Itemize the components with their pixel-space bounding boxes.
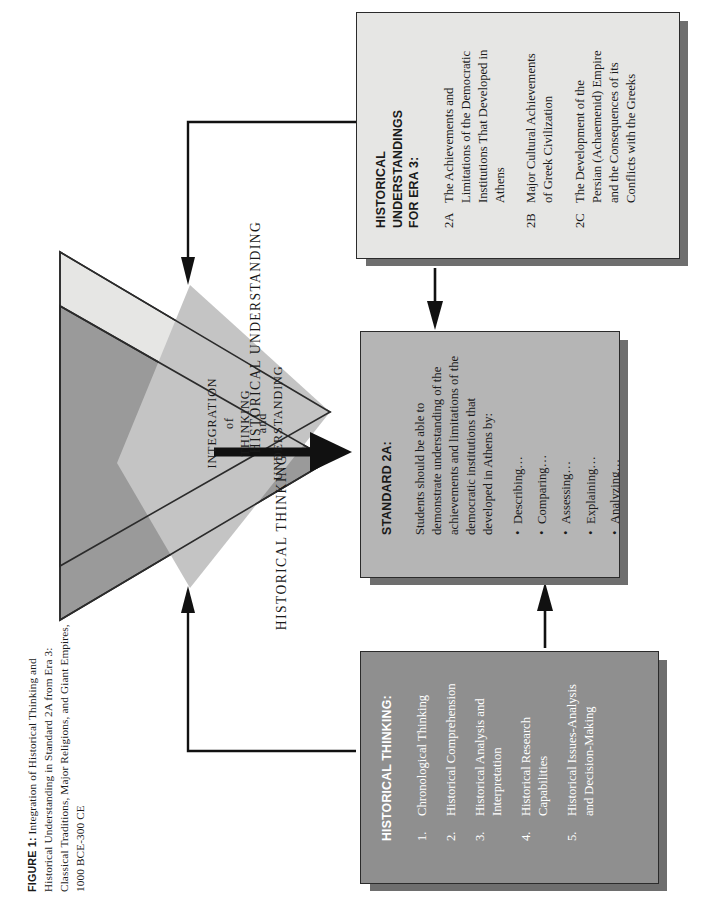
standard-bullet: •Explaining… (583, 350, 600, 535)
thinking-title: HISTORICAL THINKING: (379, 669, 396, 841)
standard-box[interactable]: STANDARD 2A: Students should be able to … (360, 331, 620, 578)
thinking-item: 4. Historical Research Capabilities (518, 669, 552, 841)
thinking-item: 3. Historical Analysis and Interpretatio… (472, 669, 506, 841)
standard-bullets: •Describing… •Comparing… •Assessing… •Ex… (510, 350, 620, 535)
arrow-head-up (181, 586, 195, 613)
standard-bullet-text: Describing… (511, 456, 525, 524)
thinking-item-num: 5. (564, 822, 598, 841)
integration-line-5: UNDERSTANDING (270, 308, 287, 538)
thinking-item-text: Chronological Thinking (414, 669, 431, 816)
integration-line-2: of (221, 308, 238, 538)
integration-line-1: INTEGRATION (204, 308, 221, 538)
integration-line-4: and (254, 308, 271, 538)
understanding-item-num: 2B (523, 209, 557, 228)
understanding-item-text: The Development of the Persian (Achaemen… (572, 43, 641, 203)
understandings-title: HISTORICAL UNDERSTANDINGS FOR ERA 3: (373, 43, 423, 228)
connector-understandings-to-triangle (188, 122, 356, 258)
understandings-title-line1: HISTORICAL UNDERSTANDINGS (373, 43, 406, 228)
understanding-item-text: The Achievements and Limitations of the … (441, 43, 510, 203)
standard-bullet-text: Assessing… (559, 461, 573, 524)
standard-bullet: •Analyzing… (607, 350, 620, 535)
thinking-item-num: 1. (414, 822, 431, 841)
understanding-item: 2B Major Cultural Achievements of Greek … (523, 43, 557, 228)
understandings-title-line2: FOR ERA 3: (406, 43, 423, 228)
understanding-item-num: 2C (572, 209, 641, 228)
standard-bullet: •Describing… (510, 350, 527, 535)
thinking-item-num: 2. (443, 822, 460, 841)
integration-line-3: THINKING (237, 308, 254, 538)
standard-bullet: •Comparing… (534, 350, 551, 535)
understanding-item: 2C The Development of the Persian (Achae… (572, 43, 641, 228)
standard-body: Students should be able to demonstrate u… (412, 350, 498, 535)
thinking-item: 5. Historical Issues-Analysis and Decisi… (564, 669, 598, 841)
understanding-item-num: 2A (441, 209, 510, 228)
arrow-head-understandings-standard (427, 301, 443, 330)
arrow-head-thinking-standard (537, 582, 553, 611)
standard-title: STANDARD 2A: (379, 350, 396, 535)
thinking-box[interactable]: HISTORICAL THINKING: 1. Chronological Th… (360, 651, 659, 884)
arrow-head-down (181, 257, 195, 285)
thinking-item-text: Historical Analysis and Interpretation (472, 669, 506, 816)
thinking-item-num: 3. (472, 822, 506, 841)
thinking-item: 2. Historical Comprehension (443, 669, 460, 841)
thinking-item-text: Historical Issues-Analysis and Decision-… (564, 669, 598, 816)
thinking-item: 1. Chronological Thinking (414, 669, 431, 841)
standard-bullet: •Assessing… (558, 350, 575, 535)
understanding-item-text: Major Cultural Achievements of Greek Civ… (523, 43, 557, 203)
understandings-box[interactable]: HISTORICAL UNDERSTANDINGS FOR ERA 3: 2A … (356, 12, 680, 259)
understanding-item: 2A The Achievements and Limitations of t… (441, 43, 510, 228)
thinking-item-num: 4. (518, 822, 552, 841)
standard-bullet-text: Analyzing… (608, 459, 620, 524)
standard-bullet-text: Explaining… (584, 456, 598, 524)
thinking-item-text: Historical Comprehension (443, 669, 460, 816)
thinking-item-text: Historical Research Capabilities (518, 669, 552, 816)
standard-bullet-text: Comparing… (535, 455, 549, 524)
